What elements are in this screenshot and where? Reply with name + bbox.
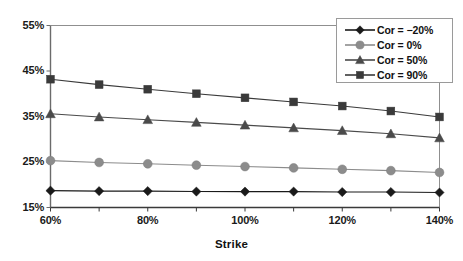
y-tick-label: 55% xyxy=(4,19,44,31)
x-axis-title: Strike xyxy=(0,238,463,250)
marker-circle xyxy=(143,159,152,168)
legend-item: Cor = −20% xyxy=(343,23,452,37)
marker-square xyxy=(387,107,395,115)
marker-square xyxy=(356,71,363,78)
marker-circle xyxy=(192,161,201,170)
marker-square xyxy=(144,85,152,93)
x-tick-label: 60% xyxy=(29,214,73,226)
series-0 xyxy=(46,186,444,197)
marker-circle xyxy=(435,168,444,177)
marker-diamond xyxy=(289,187,298,196)
marker-diamond xyxy=(435,188,444,197)
y-tick-label: 15% xyxy=(4,201,44,213)
marker-circle xyxy=(386,166,395,175)
marker-square xyxy=(338,102,346,110)
legend-marker xyxy=(343,68,377,82)
y-tick-label: 35% xyxy=(4,110,44,122)
marker-diamond xyxy=(192,187,201,196)
marker-circle xyxy=(241,162,250,171)
y-tick-label: 25% xyxy=(4,155,44,167)
marker-diamond xyxy=(386,187,395,196)
marker-square xyxy=(192,90,200,98)
marker-diamond xyxy=(95,187,104,196)
legend-label: Cor = 0% xyxy=(377,39,421,51)
marker-circle xyxy=(289,164,298,173)
legend-label: Cor = −20% xyxy=(377,24,433,36)
marker-circle xyxy=(356,41,364,49)
legend-marker xyxy=(343,38,377,52)
marker-diamond xyxy=(338,187,347,196)
series-1 xyxy=(46,156,444,177)
marker-square xyxy=(436,113,444,121)
series-2 xyxy=(46,109,445,142)
marker-square xyxy=(47,75,55,83)
marker-diamond xyxy=(240,187,249,196)
marker-triangle xyxy=(46,109,56,118)
chart-container: 15%25%35%45%55% 60%80%100%120%140% Strik… xyxy=(0,0,463,261)
legend-marker xyxy=(343,23,377,37)
legend-label: Cor = 90% xyxy=(377,69,427,81)
marker-diamond xyxy=(356,26,364,34)
marker-diamond xyxy=(46,186,55,195)
legend-item: Cor = 50% xyxy=(343,53,452,67)
legend-item: Cor = 90% xyxy=(343,68,452,82)
x-tick-label: 100% xyxy=(223,214,267,226)
x-tick-label: 80% xyxy=(126,214,170,226)
x-tick-label: 140% xyxy=(418,214,462,226)
x-tick-label: 120% xyxy=(320,214,364,226)
y-tick-label: 45% xyxy=(4,64,44,76)
marker-circle xyxy=(46,156,55,165)
legend: Cor = −20%Cor = 0%Cor = 50%Cor = 90% xyxy=(336,18,453,83)
legend-marker xyxy=(343,53,377,67)
marker-square xyxy=(290,98,298,106)
legend-label: Cor = 50% xyxy=(377,54,427,66)
marker-diamond xyxy=(143,187,152,196)
marker-square xyxy=(95,81,103,89)
marker-square xyxy=(241,94,249,102)
marker-circle xyxy=(338,165,347,174)
legend-item: Cor = 0% xyxy=(343,38,452,52)
marker-circle xyxy=(95,158,104,167)
